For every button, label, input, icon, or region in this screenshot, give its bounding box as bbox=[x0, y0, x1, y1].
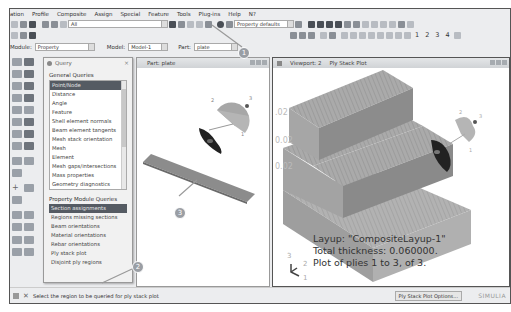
menu-tools[interactable]: Tools bbox=[177, 11, 191, 17]
selection-filter-select[interactable]: All bbox=[68, 20, 168, 28]
maximize-icon[interactable] bbox=[502, 60, 507, 65]
general-queries-scrollbar[interactable] bbox=[121, 81, 126, 189]
layers-icon[interactable] bbox=[295, 21, 302, 28]
text-annotation-icon[interactable] bbox=[380, 21, 387, 28]
query-mass-properties[interactable]: Mass properties bbox=[50, 171, 126, 180]
view-iso3-icon[interactable] bbox=[395, 32, 402, 39]
profile-manager-icon[interactable] bbox=[24, 82, 34, 90]
cube-iso-icon[interactable] bbox=[308, 32, 315, 39]
cube-front-icon[interactable] bbox=[290, 32, 297, 39]
menu-feature[interactable]: Feature bbox=[148, 11, 169, 17]
view-right-icon[interactable] bbox=[329, 32, 336, 39]
model-select[interactable]: Model-1 bbox=[128, 43, 168, 51]
orientation-manager-icon[interactable] bbox=[24, 118, 34, 126]
close-icon[interactable]: × bbox=[124, 59, 129, 66]
query-angle[interactable]: Angle bbox=[50, 99, 126, 108]
view-iso2-icon[interactable] bbox=[386, 32, 393, 39]
assign-section-icon[interactable] bbox=[12, 106, 22, 114]
ply-stack-plot-options-button[interactable]: Ply Stack Plot Options... bbox=[395, 291, 462, 301]
minimize-icon[interactable] bbox=[490, 60, 495, 65]
query-mesh-stack[interactable]: Mesh stack orientation bbox=[50, 135, 126, 144]
query-beam-tangents[interactable]: Beam element tangents bbox=[50, 126, 126, 135]
create-material-icon[interactable] bbox=[12, 58, 22, 66]
grid-icon[interactable] bbox=[29, 32, 36, 39]
view-2-button[interactable]: 2 bbox=[425, 31, 429, 39]
query-ply-stack-plot[interactable]: Ply stack plot bbox=[49, 249, 127, 258]
partition-edge-icon[interactable] bbox=[12, 211, 22, 219]
view-3-button[interactable]: 3 bbox=[435, 31, 439, 39]
query-regions-missing-sections[interactable]: Regions missing sections bbox=[49, 213, 127, 222]
screen-icon[interactable] bbox=[344, 21, 351, 28]
query-mesh-gaps[interactable]: Mesh gaps/intersections bbox=[50, 162, 126, 171]
menu-ation[interactable]: ation bbox=[10, 11, 24, 17]
ply-stack-viewport[interactable]: Viewport: 2 Ply Stack Plot bbox=[272, 57, 510, 287]
shaded-icon[interactable] bbox=[326, 21, 333, 28]
view-bottom-icon[interactable] bbox=[350, 32, 357, 39]
view-1-button[interactable]: 1 bbox=[415, 31, 419, 39]
query-disjoint-ply-regions[interactable]: Disjoint ply regions bbox=[49, 258, 127, 267]
leaf-icon[interactable] bbox=[178, 21, 185, 28]
view-front-icon[interactable] bbox=[359, 32, 366, 39]
query-element[interactable]: Element bbox=[50, 153, 126, 162]
cursor-icon[interactable] bbox=[60, 21, 67, 28]
query-shell-normals[interactable]: Shell element normals bbox=[50, 117, 126, 126]
select-by-icon[interactable] bbox=[169, 21, 176, 28]
section-assign-manager-icon[interactable] bbox=[24, 106, 34, 114]
module-select[interactable]: Property bbox=[35, 43, 95, 51]
triad-icon[interactable] bbox=[404, 32, 411, 39]
view-4-button[interactable]: 4 bbox=[445, 31, 449, 39]
table-icon[interactable] bbox=[398, 21, 405, 28]
create-profile-icon[interactable] bbox=[12, 82, 22, 90]
partition-sketch-icon[interactable] bbox=[24, 223, 34, 231]
line-icon[interactable] bbox=[371, 21, 378, 28]
query-beam-orientations[interactable]: Beam orientations bbox=[49, 222, 127, 231]
cancel-x-icon[interactable]: ✕ bbox=[23, 292, 29, 300]
menu-help[interactable]: Help bbox=[228, 11, 241, 17]
zoom-box-icon[interactable] bbox=[11, 21, 18, 28]
cube-back-icon[interactable] bbox=[299, 32, 306, 39]
query-distance[interactable]: Distance bbox=[50, 90, 126, 99]
engineering-feature-icon[interactable] bbox=[12, 169, 22, 177]
back-arrow-icon[interactable] bbox=[13, 293, 19, 299]
springs-icon[interactable] bbox=[24, 157, 34, 165]
query-point-node[interactable]: Point/Node bbox=[50, 81, 126, 90]
perspective-icon[interactable] bbox=[51, 21, 58, 28]
zoom-icon[interactable] bbox=[362, 21, 369, 28]
datum-axis-icon[interactable] bbox=[24, 184, 34, 192]
skin-icon[interactable] bbox=[12, 130, 22, 138]
query-section-assignments[interactable]: Section assignments bbox=[49, 204, 127, 213]
view-left-icon[interactable] bbox=[320, 32, 327, 39]
partition-face-icon[interactable] bbox=[24, 211, 34, 219]
view-top-icon[interactable] bbox=[341, 32, 348, 39]
stringer-manager-icon[interactable] bbox=[24, 142, 34, 150]
query-rebar-orientations[interactable]: Rebar orientations bbox=[49, 240, 127, 249]
menu-profile[interactable]: Profile bbox=[32, 11, 49, 17]
view-back-icon[interactable] bbox=[368, 32, 375, 39]
menu-plugins[interactable]: Plug-ins bbox=[199, 11, 221, 17]
skin-manager-icon[interactable] bbox=[24, 130, 34, 138]
stringer-icon[interactable] bbox=[12, 142, 22, 150]
csys2-icon[interactable] bbox=[24, 248, 34, 256]
query-feature[interactable]: Feature bbox=[50, 108, 126, 117]
column-icon[interactable] bbox=[42, 21, 49, 28]
composite-layup-icon[interactable] bbox=[12, 94, 22, 102]
ref-point-icon[interactable] bbox=[12, 236, 22, 244]
expand-icon[interactable] bbox=[196, 21, 203, 28]
wireframe-icon[interactable] bbox=[308, 21, 315, 28]
query-mesh[interactable]: Mesh bbox=[50, 144, 126, 153]
menu-context-help[interactable]: N? bbox=[249, 11, 256, 17]
create-section-icon[interactable] bbox=[12, 70, 22, 78]
hidden-line-icon[interactable] bbox=[317, 21, 324, 28]
maximize-icon[interactable] bbox=[262, 60, 267, 65]
screen2-icon[interactable] bbox=[353, 21, 360, 28]
restore-icon[interactable] bbox=[496, 60, 501, 65]
material-manager-icon[interactable] bbox=[24, 58, 34, 66]
triad2-icon[interactable] bbox=[454, 32, 461, 39]
datum-point-icon[interactable]: + bbox=[12, 184, 22, 192]
part-viewport[interactable]: Part: plate 2 3 1 bbox=[136, 57, 270, 287]
minimize-icon[interactable] bbox=[250, 60, 255, 65]
special-inertia-icon[interactable] bbox=[12, 157, 22, 165]
section-manager-icon[interactable] bbox=[24, 70, 34, 78]
sort-icon[interactable] bbox=[29, 21, 36, 28]
list-icon[interactable] bbox=[407, 21, 414, 28]
